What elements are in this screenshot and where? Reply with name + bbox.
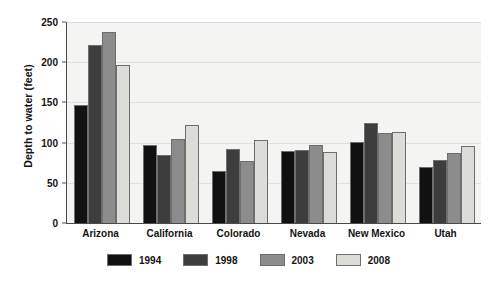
bar-chart-figure: Depth to water (feet) 050100150200250 Ar… xyxy=(0,0,497,285)
chart-legend: 1994199820032008 xyxy=(0,254,497,266)
bar xyxy=(323,152,337,223)
legend-swatch xyxy=(260,254,285,266)
legend-label: 1994 xyxy=(139,255,161,266)
bar xyxy=(143,145,157,223)
y-tick-label: 0 xyxy=(52,218,58,229)
legend-label: 2003 xyxy=(292,255,314,266)
bar xyxy=(295,150,309,223)
legend-item: 1994 xyxy=(107,254,161,266)
y-tick-label: 200 xyxy=(41,57,58,68)
x-axis-label: New Mexico xyxy=(342,228,411,244)
bar xyxy=(419,167,433,223)
y-axis-title-text: Depth to water (feet) xyxy=(22,64,34,168)
bar xyxy=(212,171,226,223)
bar-group xyxy=(136,22,205,223)
bar xyxy=(309,145,323,223)
bar-groups xyxy=(67,22,481,223)
x-axis-label: California xyxy=(135,228,204,244)
bar xyxy=(240,161,254,223)
x-axis-label: Utah xyxy=(411,228,480,244)
bar xyxy=(254,140,268,223)
legend-label: 1998 xyxy=(215,255,237,266)
legend-item: 2008 xyxy=(336,254,390,266)
plot-area xyxy=(66,22,481,224)
legend-item: 1998 xyxy=(183,254,237,266)
bar xyxy=(157,155,171,223)
y-tick-label: 50 xyxy=(47,177,58,188)
y-tick-label: 250 xyxy=(41,17,58,28)
bar-group xyxy=(67,22,136,223)
bar xyxy=(185,125,199,223)
bar xyxy=(447,153,461,223)
bar xyxy=(378,133,392,223)
bar-group xyxy=(343,22,412,223)
legend-item: 2003 xyxy=(260,254,314,266)
y-tick-label: 100 xyxy=(41,137,58,148)
bar xyxy=(433,160,447,223)
bar xyxy=(88,45,102,223)
bar xyxy=(226,149,240,223)
bar xyxy=(392,132,406,223)
x-axis-category-labels: ArizonaCaliforniaColoradoNevadaNew Mexic… xyxy=(66,228,480,244)
bar xyxy=(350,142,364,223)
bar xyxy=(281,151,295,223)
bar-group xyxy=(412,22,481,223)
bar xyxy=(74,105,88,223)
bar xyxy=(171,139,185,223)
bar-group xyxy=(274,22,343,223)
bar xyxy=(116,65,130,223)
legend-swatch xyxy=(107,254,132,266)
bar-group xyxy=(205,22,274,223)
y-tick-label: 150 xyxy=(41,97,58,108)
legend-swatch xyxy=(336,254,361,266)
x-axis-label: Nevada xyxy=(273,228,342,244)
bar xyxy=(461,146,475,223)
bar xyxy=(102,32,116,223)
x-axis-label: Colorado xyxy=(204,228,273,244)
legend-swatch xyxy=(183,254,208,266)
x-axis-label: Arizona xyxy=(66,228,135,244)
y-axis-tick-labels: 050100150200250 xyxy=(34,22,62,223)
bar xyxy=(364,123,378,223)
legend-label: 2008 xyxy=(368,255,390,266)
